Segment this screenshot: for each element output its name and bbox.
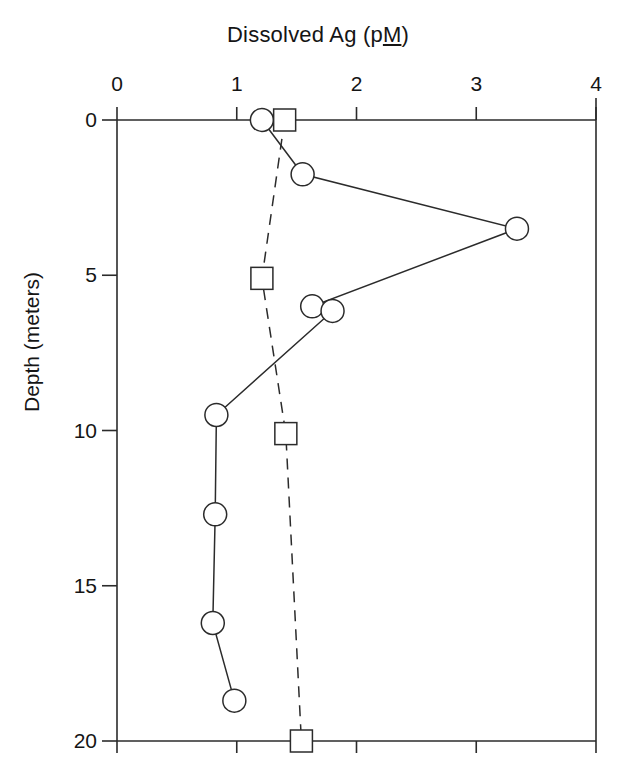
series-circle-series: [201, 109, 528, 713]
data-point-circle: [201, 612, 224, 635]
data-point-circle: [250, 109, 273, 132]
data-point-circle: [301, 295, 324, 318]
data-point-circle: [321, 299, 344, 322]
data-point-circle: [291, 163, 314, 186]
plot-area: [0, 0, 636, 771]
data-point-square: [290, 730, 312, 752]
data-point-circle: [204, 503, 227, 526]
data-point-circle: [223, 689, 246, 712]
data-point-square: [275, 423, 297, 445]
chart-figure: Dissolved Ag (pM) Depth (meters) 01234 0…: [0, 0, 636, 771]
data-point-circle: [505, 217, 528, 240]
data-point-square: [274, 109, 296, 131]
series-line: [213, 120, 517, 701]
data-point-square: [251, 267, 273, 289]
series-square-series: [251, 109, 313, 752]
data-point-circle: [205, 403, 228, 426]
